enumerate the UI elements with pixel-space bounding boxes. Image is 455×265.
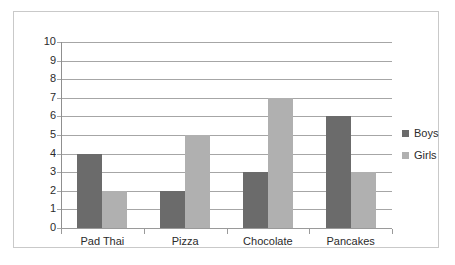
category-label-pancakes: Pancakes bbox=[309, 235, 392, 248]
bar-group bbox=[309, 42, 392, 228]
y-tick-label-6: 6 bbox=[30, 110, 56, 121]
legend-item-boys[interactable]: Boys bbox=[402, 122, 438, 144]
bar-group bbox=[227, 42, 310, 228]
legend-swatch-icon bbox=[402, 130, 409, 137]
y-tick-label-8: 8 bbox=[30, 73, 56, 84]
bar-pad-thai-girls[interactable] bbox=[102, 191, 127, 228]
legend-label: Boys bbox=[414, 127, 438, 139]
y-tick-label-1: 1 bbox=[30, 203, 56, 214]
legend-item-girls[interactable]: Girls bbox=[402, 144, 438, 166]
category-tick-4 bbox=[392, 229, 393, 234]
chart-frame: 109876543210 Pad ThaiPizzaChocolatePanca… bbox=[13, 11, 439, 248]
y-tick-label-4: 4 bbox=[30, 148, 56, 159]
bar-pancakes-boys[interactable] bbox=[326, 116, 351, 228]
category-label-pad-thai: Pad Thai bbox=[61, 235, 144, 248]
plot-area bbox=[61, 42, 392, 228]
y-axis-tick-labels: 109876543210 bbox=[26, 42, 56, 228]
bar-pizza-girls[interactable] bbox=[185, 135, 210, 228]
y-tick-label-2: 2 bbox=[30, 185, 56, 196]
legend-swatch-icon bbox=[402, 152, 409, 159]
chart-legend: BoysGirls bbox=[402, 122, 438, 166]
y-tick-label-9: 9 bbox=[30, 55, 56, 66]
category-tick-1 bbox=[144, 229, 145, 234]
category-tick-2 bbox=[227, 229, 228, 234]
y-tick-label-5: 5 bbox=[30, 129, 56, 140]
bar-chocolate-girls[interactable] bbox=[268, 98, 293, 228]
bar-chocolate-boys[interactable] bbox=[243, 172, 268, 228]
y-tick-label-0: 0 bbox=[30, 222, 56, 233]
bar-group bbox=[61, 42, 144, 228]
category-label-pizza: Pizza bbox=[144, 235, 227, 248]
y-tick-label-10: 10 bbox=[30, 36, 56, 47]
bar-pad-thai-boys[interactable] bbox=[77, 154, 102, 228]
y-tick-label-3: 3 bbox=[30, 166, 56, 177]
y-tick-label-7: 7 bbox=[30, 92, 56, 103]
bar-pizza-boys[interactable] bbox=[160, 191, 185, 228]
category-tick-0 bbox=[61, 229, 62, 234]
bar-group bbox=[144, 42, 227, 228]
category-tick-3 bbox=[309, 229, 310, 234]
bar-pancakes-girls[interactable] bbox=[351, 172, 376, 228]
legend-label: Girls bbox=[414, 149, 437, 161]
category-label-chocolate: Chocolate bbox=[227, 235, 310, 248]
